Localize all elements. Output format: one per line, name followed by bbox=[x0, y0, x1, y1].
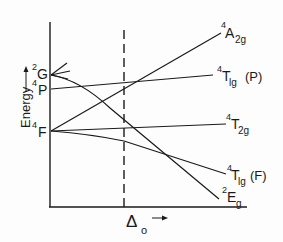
delta-label: Δ bbox=[126, 212, 137, 231]
4T1g-F-line bbox=[51, 131, 226, 174]
state-4T1gF-suffix: (F) bbox=[250, 168, 267, 183]
diagram-svg: Energy 2 G 4 P 4 F 4 A 2g 4 T lg (P) 4 T… bbox=[0, 0, 283, 242]
4T1g-P-line bbox=[51, 75, 213, 89]
4T2g-line bbox=[51, 124, 226, 131]
2Eg-line bbox=[51, 75, 219, 199]
energy-level-diagram: Energy 2 G 4 P 4 F 4 A 2g 4 T lg (P) 4 T… bbox=[0, 0, 283, 242]
4A2g-line bbox=[51, 33, 221, 131]
term-4P-letter: P bbox=[38, 82, 47, 98]
state-4T1gF-sub: lg bbox=[238, 176, 246, 187]
state-4A2g-letter: A bbox=[225, 25, 235, 41]
term-4P-sup: 4 bbox=[32, 78, 37, 88]
state-4T1gP-suffix: (P) bbox=[245, 69, 262, 84]
term-2G-letter: G bbox=[37, 66, 48, 82]
term-4F-sup: 4 bbox=[32, 120, 37, 130]
state-4T1gP-sub: lg bbox=[229, 77, 237, 88]
term-4F-letter: F bbox=[38, 124, 47, 140]
state-2Eg-sub: g bbox=[236, 198, 242, 209]
delta-subscript: o bbox=[141, 224, 147, 236]
y-axis-label: Energy bbox=[18, 86, 33, 128]
right-arrow-icon bbox=[152, 216, 168, 221]
state-2Eg-letter: E bbox=[227, 189, 236, 205]
state-4A2g-sub: 2g bbox=[235, 34, 246, 45]
state-4T2g-sub: 2g bbox=[238, 125, 249, 136]
energy-label: Energy bbox=[18, 86, 33, 128]
